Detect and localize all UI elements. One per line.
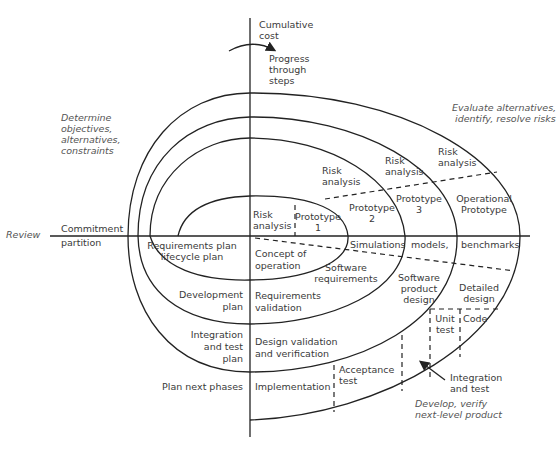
- integration-test-plan: Integrationand testplan: [191, 329, 244, 364]
- quadrant-develop: Develop, verifynext-level product: [415, 398, 503, 420]
- risk-analysis-2: Riskanalysis: [322, 165, 361, 187]
- requirements-validation: Requirementsvalidation: [255, 290, 321, 313]
- progress-arrow-icon: [229, 44, 274, 51]
- software-requirements: Softwarerequirements: [314, 262, 378, 284]
- software-product-design: Softwareproductdesign: [398, 272, 440, 305]
- detailed-design: Detaileddesign: [459, 282, 499, 304]
- risk-analysis-1: Riskanalysis: [253, 209, 292, 231]
- cumulative-label: Cumulativecost: [259, 19, 313, 41]
- commitment-label: Commitment: [61, 223, 123, 234]
- quadrant-evaluate: Evaluate alternatives,identify, resolve …: [452, 102, 556, 124]
- benchmarks-label: benchmarks: [461, 239, 520, 250]
- unit-test: Unittest: [435, 313, 455, 335]
- prototype-3: Prototype3: [396, 193, 442, 215]
- spiral-model-diagram: Cumulativecost Progressthroughsteps Comm…: [0, 0, 557, 451]
- code-label: Code: [463, 313, 487, 324]
- quadrant-determine: Determineobjectives,alternatives,constra…: [61, 112, 121, 156]
- integration-and-test: Integrationand test: [450, 372, 502, 394]
- concept-of-operation: Concept ofoperation: [255, 248, 307, 271]
- operational-prototype: OperationalPrototype: [456, 193, 512, 215]
- partition-label: partition: [61, 237, 101, 248]
- progress-label: Progressthroughsteps: [269, 53, 310, 86]
- spiral-inner: [150, 196, 348, 280]
- design-validation: Design validationand verification: [255, 336, 338, 359]
- risk-analysis-3: Riskanalysis: [385, 155, 424, 177]
- models-label: models,: [411, 239, 449, 250]
- plan-next-phases: Plan next phases: [162, 381, 243, 392]
- implementation: Implementation: [255, 381, 330, 392]
- development-plan: Developmentplan: [179, 289, 243, 312]
- acceptance-test: Acceptancetest: [339, 364, 394, 386]
- review-label: Review: [6, 229, 41, 240]
- simulations-label: Simulations: [350, 239, 406, 250]
- requirements-plan: Requirements planlifecycle plan: [147, 240, 237, 262]
- risk-analysis-4: Riskanalysis: [438, 146, 477, 168]
- spiral-svg: Cumulativecost Progressthroughsteps Comm…: [0, 0, 557, 451]
- prototype-1: Prototype1: [295, 211, 341, 233]
- prototype-2: Prototype2: [349, 202, 395, 224]
